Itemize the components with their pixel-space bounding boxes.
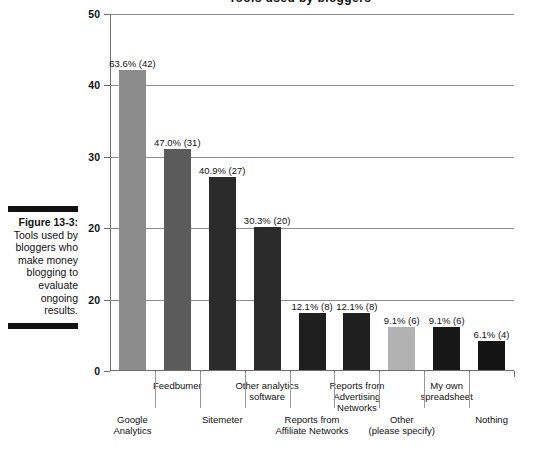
clipped-chart-title: Tools used by bloggers [150,0,450,5]
y-axis-tick [104,14,110,15]
x-label-separator [379,372,380,408]
bar [299,313,326,370]
caption-number: Figure 13-3: [18,216,78,228]
x-label-separator [245,372,246,408]
figure-container: Tools used by bloggers Figure 13-3: Tool… [0,0,533,454]
figure-caption-block: Figure 13-3: Tools used by bloggers who … [4,206,78,329]
x-axis-category-label: Other(please specify) [359,414,445,436]
x-label-separator [424,372,425,408]
bar [209,177,236,370]
gridline [110,14,514,15]
chart-plot-area: 5040302020063.6% (42)GoogleAnalytics47.0… [110,14,514,371]
bar [119,70,146,370]
bar-data-label: 9.1% (6) [384,315,420,326]
gridline [110,85,514,86]
x-label-separator [200,372,201,408]
bar-data-label: 12.1% (8) [291,301,332,312]
caption-rule-bottom [8,323,78,329]
y-axis-label: 20 [88,294,100,306]
y-axis-tick [104,228,110,229]
y-axis-label: 40 [88,79,100,91]
bar [164,149,191,370]
x-axis-line [110,370,514,371]
x-axis-category-label: Sitemeter [179,414,265,425]
x-axis-tick [514,371,515,377]
x-axis-category-label: My ownspreadsheet [404,380,490,402]
y-axis-label: 30 [88,151,100,163]
bar-data-label: 47.0% (31) [154,137,200,148]
bar [388,327,415,370]
y-axis-tick [104,85,110,86]
x-label-separator [334,372,335,408]
bar [478,341,505,370]
x-axis-category-label: Reports fromAffiliate Networks [269,414,355,436]
y-axis-tick [104,300,110,301]
x-axis-category-label: Other analyticssoftware [224,380,310,402]
x-axis-category-label: Nothing [449,414,533,425]
bar-data-label: 40.9% (27) [199,165,245,176]
x-axis-category-label: GoogleAnalytics [89,414,175,436]
caption-text: Figure 13-3: Tools used by bloggers who … [4,212,78,318]
y-axis-label: 50 [88,8,100,20]
y-axis-tick [104,157,110,158]
y-axis-label: 0 [94,365,100,377]
bar [343,313,370,370]
x-label-separator [469,372,470,408]
bar-data-label: 63.6% (42) [109,58,155,69]
y-axis-tick [104,371,110,372]
x-label-separator [290,372,291,408]
bar-data-label: 9.1% (6) [429,315,465,326]
x-axis-category-label: Feedbumer [134,380,220,391]
y-axis-label: 20 [88,222,100,234]
bar [254,227,281,370]
bar-data-label: 30.3% (20) [244,215,290,226]
x-axis-category-label: Reports fromAdvertisingNetworks [314,380,400,413]
bar-data-label: 12.1% (8) [336,301,377,312]
bar [433,327,460,370]
caption-body: Tools used by bloggers who make money bl… [14,229,78,317]
x-label-separator [155,372,156,408]
bar-data-label: 6.1% (4) [474,329,510,340]
